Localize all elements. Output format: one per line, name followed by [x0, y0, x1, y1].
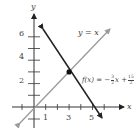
intersection-point	[67, 69, 72, 74]
chart: y x 6 4 2 1 3 5 y = x f(x) = − 3 2 x + 1…	[0, 0, 140, 136]
line-label-f-of-x: f(x) = − 3 2 x + 15 2	[82, 75, 134, 85]
y-axis-label: y	[31, 3, 36, 11]
x-tick-label-1: 1	[43, 114, 48, 122]
x-tick-label-5: 5	[89, 114, 94, 122]
fraction-2: 15 2	[128, 75, 134, 85]
y-tick-label-4: 4	[19, 53, 24, 61]
fraction-1-den: 2	[111, 81, 114, 86]
x-tick-label-3: 3	[66, 114, 71, 122]
fraction-2-den: 2	[130, 81, 133, 86]
line-label-y-equals-x: y = x	[78, 29, 99, 37]
y-tick-label-6: 6	[19, 30, 24, 38]
f-mid: x +	[115, 77, 127, 84]
f-prefix: f(x) = −	[82, 77, 110, 84]
y-tick-label-2: 2	[19, 77, 24, 85]
line-f-of-x	[43, 29, 102, 118]
fraction-1: 3 2	[111, 75, 114, 85]
x-axis-label: x	[127, 103, 132, 111]
